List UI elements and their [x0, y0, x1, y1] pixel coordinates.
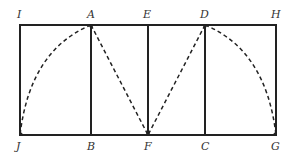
label-E: E	[142, 8, 151, 21]
point-G-dot	[274, 133, 277, 136]
point-J-dot	[20, 133, 23, 136]
label-C: C	[201, 140, 210, 153]
geometric-diagram: I A E D H J B F C G	[0, 0, 293, 156]
point-A-dot	[89, 24, 93, 28]
label-B: B	[86, 140, 95, 153]
dashed-segment-DF	[148, 25, 205, 135]
label-D: D	[199, 8, 209, 21]
point-F-dot	[146, 132, 150, 136]
label-A: A	[86, 8, 95, 21]
point-D-dot	[203, 24, 207, 28]
dashed-arc-DG	[205, 25, 276, 135]
label-J: J	[14, 140, 21, 153]
dashed-arc-AJ	[20, 25, 91, 135]
label-I: I	[16, 8, 22, 21]
label-H: H	[270, 8, 281, 21]
dashed-segment-AF	[91, 25, 148, 135]
label-G: G	[271, 140, 280, 153]
label-F: F	[143, 140, 152, 153]
